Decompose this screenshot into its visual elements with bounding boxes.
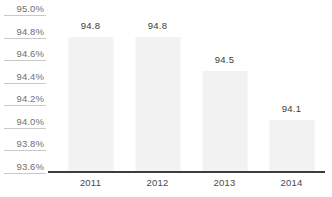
y-axis-tick-label: 93.6% <box>17 161 44 172</box>
bar-value-label: 94.8 <box>81 20 100 31</box>
y-axis-tick-rule <box>4 60 46 61</box>
y-axis-tick-label: 94.0% <box>17 116 44 127</box>
y-axis-tick-label: 94.2% <box>17 93 44 104</box>
x-axis-tick-label: 2011 <box>80 177 101 188</box>
y-axis: 95.0% 94.8% 94.6% 94.4% 94.2% 94.0% 93.8… <box>0 0 52 197</box>
x-axis-tick-label: 2013 <box>214 177 236 188</box>
y-axis-tick: 95.0% <box>0 2 48 16</box>
x-axis: 2011 2012 2013 2014 <box>57 175 325 195</box>
bar[interactable] <box>135 37 180 172</box>
bar[interactable] <box>202 71 247 172</box>
plot-area: 94.8 94.8 94.5 94.1 <box>57 0 325 172</box>
y-axis-tick: 93.6% <box>0 160 48 174</box>
y-axis-tick: 93.8% <box>0 137 48 151</box>
bar-slot: 94.1 <box>258 0 325 172</box>
y-axis-tick-label: 94.4% <box>17 71 44 82</box>
bar-chart: 95.0% 94.8% 94.6% 94.4% 94.2% 94.0% 93.8… <box>0 0 332 197</box>
y-axis-tick-label: 94.8% <box>17 26 44 37</box>
bar-value-label: 94.5 <box>215 54 234 65</box>
y-axis-tick-rule <box>4 38 46 39</box>
x-axis-tick-label: 2012 <box>147 177 169 188</box>
y-axis-tick: 94.8% <box>0 25 48 39</box>
y-axis-tick-rule <box>4 105 46 106</box>
y-axis-tick-label: 94.6% <box>17 48 44 59</box>
y-axis-tick-rule <box>4 128 46 129</box>
y-axis-tick-label: 95.0% <box>17 3 44 14</box>
x-axis-tick-label: 2014 <box>281 177 303 188</box>
y-axis-tick: 94.2% <box>0 92 48 106</box>
y-axis-tick-rule <box>4 83 46 84</box>
bar[interactable] <box>269 120 314 172</box>
bar-slot: 94.8 <box>57 0 124 172</box>
x-axis-line <box>48 171 325 173</box>
y-axis-tick: 94.0% <box>0 115 48 129</box>
y-axis-tick-label: 93.8% <box>17 138 44 149</box>
y-axis-tick-rule <box>4 150 46 151</box>
y-axis-tick-rule <box>4 173 46 174</box>
bar-slot: 94.8 <box>124 0 191 172</box>
y-axis-tick: 94.6% <box>0 47 48 61</box>
bar-value-label: 94.8 <box>148 20 167 31</box>
y-axis-tick-rule <box>4 15 46 16</box>
bar-value-label: 94.1 <box>282 103 301 114</box>
y-axis-tick: 94.4% <box>0 70 48 84</box>
bar[interactable] <box>68 37 113 172</box>
bar-slot: 94.5 <box>191 0 258 172</box>
